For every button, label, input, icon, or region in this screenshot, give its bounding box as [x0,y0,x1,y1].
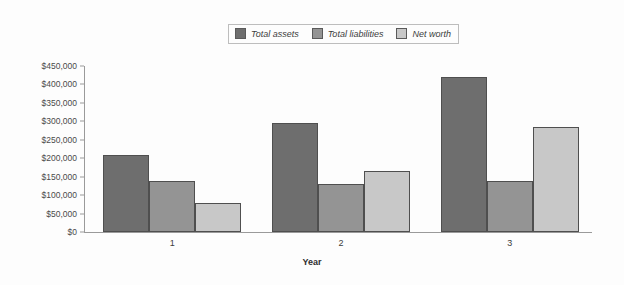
bar [364,171,410,232]
legend-label: Total liabilities [328,29,384,39]
bar-group [272,66,410,232]
legend-swatch-icon [396,28,407,39]
y-axis-tick-label: $400,000 [42,80,77,89]
y-axis-tick-label: $150,000 [42,172,77,181]
y-axis-tick-label: $100,000 [42,191,77,200]
chart-legend: Total assets Total liabilities Net worth [228,24,459,44]
x-axis-title: Year [0,257,624,268]
bar [149,181,195,232]
legend-swatch-icon [312,28,323,39]
legend-item-net-worth: Net worth [396,28,451,39]
legend-item-total-assets: Total assets [235,28,299,39]
y-axis-tick: $250,000 [42,135,84,144]
legend-label: Net worth [412,29,451,39]
x-axis-tick-label: 3 [507,238,512,249]
y-axis-tick: $300,000 [42,117,84,126]
y-axis-tick-label: $50,000 [46,209,77,218]
y-axis-tick-label: $200,000 [42,154,77,163]
bar-group [103,66,241,232]
y-axis-tick: $350,000 [42,98,84,107]
plot-area [84,66,590,232]
legend-item-total-liabilities: Total liabilities [312,28,384,39]
bar [272,123,318,232]
legend-label: Total assets [251,29,299,39]
y-axis-tick: $150,000 [42,172,84,181]
bar-group [441,66,579,232]
y-axis-tick: $400,000 [42,80,84,89]
y-axis-tick-label: $0 [68,228,77,237]
y-axis-tick: $450,000 [42,62,84,71]
bar [533,127,579,232]
bar-chart: Total assets Total liabilities Net worth… [0,0,624,285]
y-axis-tick-label: $350,000 [42,98,77,107]
y-axis-tick-label: $300,000 [42,117,77,126]
x-axis-tick-label: 1 [170,238,175,249]
bar [487,181,533,232]
bar [103,155,149,232]
legend-swatch-icon [235,28,246,39]
y-axis-tick-label: $450,000 [42,62,77,71]
y-axis-tick: $0 [68,228,84,237]
y-axis-tick: $100,000 [42,191,84,200]
y-axis-tick-label: $250,000 [42,135,77,144]
y-axis: $450,000$400,000$350,000$300,000$250,000… [0,0,84,285]
y-axis-tick: $200,000 [42,154,84,163]
x-axis-line [84,232,592,233]
y-axis-tick: $50,000 [46,209,84,218]
bar [318,184,364,232]
x-axis-tick-label: 2 [338,238,343,249]
bar [441,77,487,232]
bar [195,203,241,233]
